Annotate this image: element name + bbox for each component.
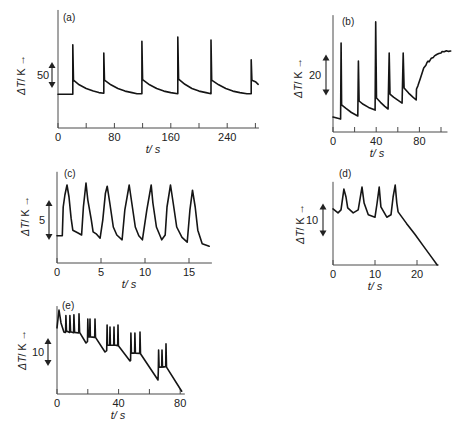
x-tick-label: 0	[330, 135, 336, 147]
panel-title: (c)	[64, 168, 76, 179]
x-axis-label: t/ s	[368, 280, 383, 292]
scale-bar: 5	[39, 200, 53, 240]
scale-bar: 10	[32, 338, 52, 366]
panel-d: (d) 0 10 20 t/ s ΔT/ K→ 10	[294, 168, 439, 292]
x-tick-label: 10	[369, 268, 381, 280]
scale-bar-label: 20	[309, 69, 321, 81]
x-tick-label: 40	[370, 135, 382, 147]
y-axis-unit: / K	[16, 344, 28, 357]
x-tick-label: 80	[174, 397, 186, 409]
y-axis-label: ΔT/ K→	[15, 55, 27, 96]
scale-bar-label: 10	[32, 346, 44, 358]
x-tick-label: 80	[413, 135, 425, 147]
arrow-down-icon	[49, 82, 56, 88]
x-tick-label: 0	[55, 131, 61, 143]
arrow-down-icon	[46, 234, 53, 240]
arrow-right-icon: →	[292, 58, 304, 69]
x-tick-label: 0	[330, 268, 336, 280]
y-axis-label: ΔT/ K→	[292, 58, 304, 99]
y-axis-unit: / K	[294, 218, 306, 231]
arrow-up-icon	[45, 338, 52, 344]
arrow-up-icon	[46, 200, 53, 206]
x-axis-label: t/ s	[111, 409, 126, 421]
data-trace	[57, 183, 209, 246]
data-trace	[58, 37, 258, 94]
x-ticks	[333, 127, 441, 132]
data-trace	[57, 310, 182, 391]
x-tick-label: 15	[183, 266, 195, 278]
x-tick-label: 10	[139, 266, 151, 278]
x-tick-label: 80	[108, 131, 120, 143]
x-ticks	[58, 123, 255, 128]
y-axis-unit: / K	[15, 69, 27, 82]
scale-bar: 20	[309, 55, 330, 96]
arrow-down-icon	[320, 231, 327, 237]
x-tick-label: 0	[54, 397, 60, 409]
arrow-up-icon	[323, 55, 330, 61]
scale-bar: 50	[37, 62, 56, 88]
data-trace	[333, 185, 437, 265]
scale-bar: 10	[306, 204, 327, 237]
scale-bar-label: 50	[37, 69, 49, 81]
x-axis-label: t/ s	[370, 147, 385, 159]
y-axis-label: ΔT/ K→	[16, 330, 28, 371]
figure: (a) 0 80 160 240 t/ s ΔT/ K→ 50 (b) 0 40…	[0, 0, 462, 439]
panel-a: (a) 0 80 160 240 t/ s ΔT/ K→ 50	[15, 10, 259, 155]
arrow-right-icon: →	[294, 204, 306, 215]
panel-title: (e)	[62, 300, 74, 311]
x-axis-label: t/ s	[146, 143, 161, 155]
x-tick-label: 20	[411, 268, 423, 280]
x-ticks	[57, 258, 189, 263]
panel-title: (d)	[339, 168, 351, 179]
arrow-right-icon: →	[19, 196, 31, 207]
x-tick-label: 240	[218, 131, 236, 143]
x-tick-label: 0	[54, 266, 60, 278]
panel-title: (a)	[63, 12, 75, 23]
y-axis-label: ΔT/ K→	[19, 196, 31, 237]
x-axis-label: t/ s	[122, 278, 137, 290]
y-axis-unit: / K	[292, 72, 304, 85]
y-axis-unit: / K	[19, 210, 31, 223]
panel-b: (b) 0 40 80 t/ s ΔT/ K→ 20	[292, 15, 451, 159]
arrow-down-icon	[323, 90, 330, 96]
panel-title: (b)	[342, 16, 354, 27]
arrow-up-icon	[320, 204, 327, 210]
scale-bar-label: 5	[39, 214, 45, 226]
panel-c: (c) 0 5 10 15 t/ s ΔT/ K→ 5	[19, 168, 212, 290]
arrow-down-icon	[45, 360, 52, 366]
x-tick-label: 5	[98, 266, 104, 278]
x-tick-label: 40	[112, 397, 124, 409]
data-trace	[333, 22, 451, 119]
y-axis-label: ΔT/ K→	[294, 204, 306, 245]
x-ticks	[333, 260, 417, 265]
arrow-up-icon	[49, 62, 56, 68]
panel-e: (e) 0 40 80 t/ s ΔT/ K→ 10	[16, 300, 187, 421]
scale-bar-label: 10	[306, 214, 318, 226]
x-tick-label: 160	[162, 131, 180, 143]
arrow-right-icon: →	[15, 55, 27, 66]
arrow-right-icon: →	[16, 330, 28, 341]
x-ticks	[57, 389, 180, 394]
